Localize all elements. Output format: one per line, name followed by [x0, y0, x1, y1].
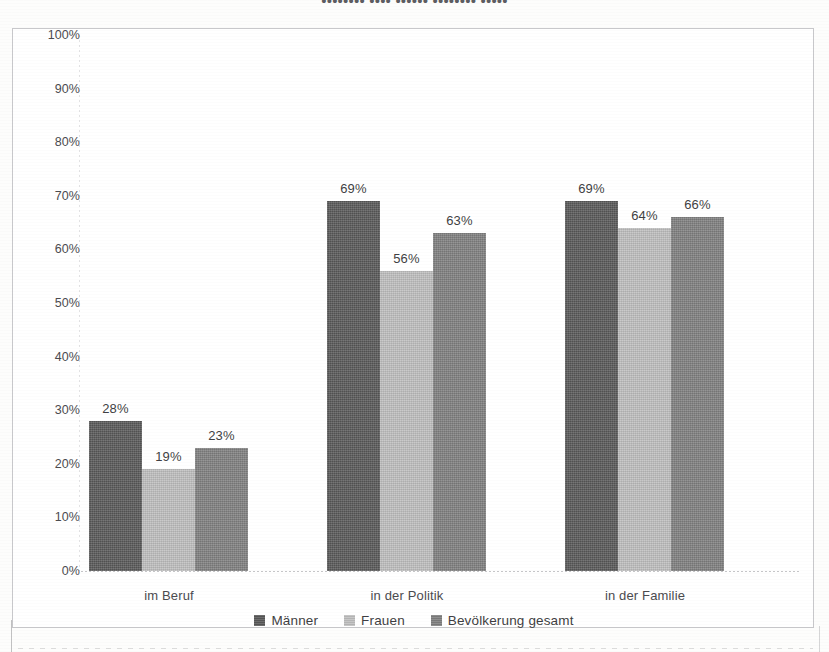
y-axis-tick-100: 100%	[48, 28, 80, 42]
bar-value-label: 56%	[393, 251, 420, 266]
bar-group-2: 69%56%63%in der Politik	[327, 35, 487, 571]
bar-value-label: 66%	[684, 197, 711, 212]
bar-value-label: 19%	[155, 449, 182, 464]
bars-container: 69%56%63%	[327, 35, 486, 571]
bar-in-der-familie-männer[interactable]: 69%	[565, 201, 618, 571]
y-axis-tick-30: 30%	[55, 403, 80, 417]
bar-value-label: 28%	[102, 401, 129, 416]
bar-im-beruf-frauen[interactable]: 19%	[142, 469, 195, 571]
y-axis-tick-20: 20%	[55, 457, 80, 471]
y-axis-tick-60: 60%	[55, 242, 80, 256]
y-axis-tick-40: 40%	[55, 350, 80, 364]
bar-im-beruf-männer[interactable]: 28%	[89, 421, 142, 571]
page-bottom-rule	[18, 648, 813, 649]
bar-group-1: 28%19%23%im Beruf	[89, 35, 249, 571]
x-axis-category-label: im Beruf	[89, 588, 249, 603]
legend-item-männer[interactable]: Männer	[254, 613, 318, 628]
bars-container: 69%64%66%	[565, 35, 724, 571]
bar-in-der-politik-männer[interactable]: 69%	[327, 201, 380, 571]
bar-value-label: 23%	[208, 428, 235, 443]
legend-label: Männer	[271, 613, 318, 628]
bar-im-beruf-bevölkerung-gesamt[interactable]: 23%	[195, 448, 248, 571]
cropped-title-remnant: •••••••• •••• •••••• •••••••• •••••	[0, 0, 829, 4]
legend-label: Frauen	[361, 613, 405, 628]
bar-value-label: 63%	[446, 213, 473, 228]
legend-swatch-icon	[431, 615, 442, 626]
bar-value-label: 69%	[340, 181, 367, 196]
bar-value-label: 64%	[631, 208, 658, 223]
bar-in-der-familie-frauen[interactable]: 64%	[618, 228, 671, 571]
zero-baseline	[81, 571, 801, 572]
page-edge-left	[11, 620, 12, 652]
y-axis-tick-50: 50%	[55, 296, 80, 310]
bar-in-der-politik-bevölkerung-gesamt[interactable]: 63%	[433, 233, 486, 571]
legend-swatch-icon	[344, 615, 355, 626]
legend-item-bevölkerung-gesamt[interactable]: Bevölkerung gesamt	[431, 613, 574, 628]
legend-item-frauen[interactable]: Frauen	[344, 613, 405, 628]
y-axis-tick-0: 0%	[62, 564, 80, 578]
legend-swatch-icon	[254, 615, 265, 626]
y-axis-tick-10: 10%	[55, 510, 80, 524]
bar-group-3: 69%64%66%in der Familie	[565, 35, 725, 571]
y-axis-tick-70: 70%	[55, 189, 80, 203]
x-axis-category-label: in der Familie	[565, 588, 725, 603]
bar-in-der-politik-frauen[interactable]: 56%	[380, 271, 433, 571]
legend-label: Bevölkerung gesamt	[448, 613, 574, 628]
y-axis-tick-90: 90%	[55, 82, 80, 96]
bar-value-label: 69%	[578, 181, 605, 196]
x-axis-category-label: in der Politik	[327, 588, 487, 603]
page-edge-right	[819, 626, 820, 652]
bars-container: 28%19%23%	[89, 35, 248, 571]
chart-legend: MännerFrauenBevölkerung gesamt	[13, 613, 815, 628]
y-axis-tick-80: 80%	[55, 135, 80, 149]
chart-frame: 100%90%80%70%60%50%40%30%20%10%0% 28%19%…	[12, 28, 814, 628]
bar-in-der-familie-bevölkerung-gesamt[interactable]: 66%	[671, 217, 724, 571]
plot-area: 100%90%80%70%60%50%40%30%20%10%0% 28%19%…	[89, 35, 801, 571]
scanned-page: •••••••• •••• •••••• •••••••• ••••• 100%…	[0, 0, 829, 652]
